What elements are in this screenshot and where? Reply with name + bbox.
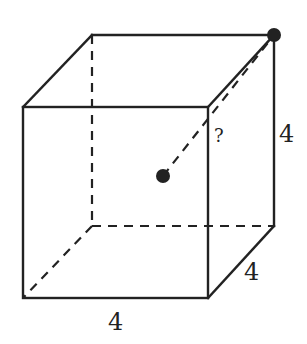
depth-label: 4: [244, 258, 259, 286]
width-label: 4: [108, 308, 123, 336]
front-face: [23, 107, 208, 298]
hidden-edge-bottom-left-depth: [23, 226, 92, 298]
edge-bottom-right-depth: [208, 226, 274, 298]
center-to-corner-segment: [163, 35, 274, 176]
corner-point-icon: [267, 28, 281, 42]
cube-diagram: ? 4 4 4: [0, 0, 307, 344]
height-label: 4: [279, 120, 294, 148]
edge-top-left-depth: [23, 35, 92, 107]
center-point-icon: [156, 169, 170, 183]
unknown-distance-label: ?: [214, 125, 224, 146]
